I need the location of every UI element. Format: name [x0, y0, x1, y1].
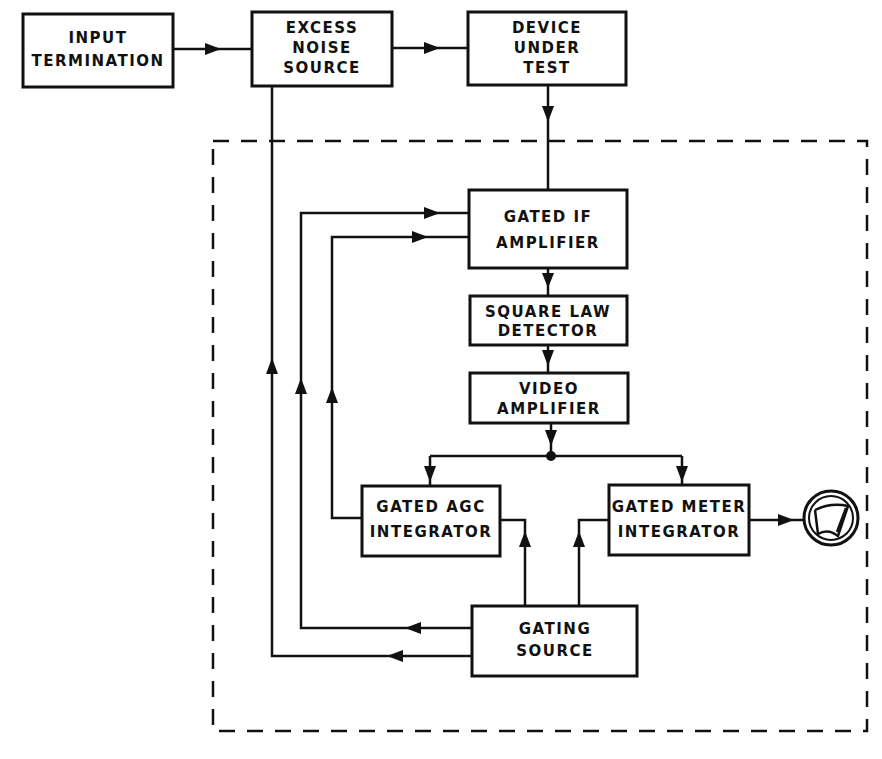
- block-label: INTEGRATOR: [370, 523, 492, 541]
- block-diagram: INPUT TERMINATION EXCESS NOISE SOURCE DE…: [0, 0, 882, 759]
- block-label: EXCESS: [286, 19, 358, 37]
- block-label: TEST: [523, 59, 571, 77]
- block-label: SOURCE: [516, 642, 594, 660]
- block-label: GATED AGC: [376, 498, 485, 516]
- block-label: INTEGRATOR: [618, 523, 740, 541]
- block-device-under-test: DEVICE UNDER TEST: [468, 12, 626, 85]
- block-gating-source: GATING SOURCE: [472, 606, 637, 676]
- block-gated-meter-integrator: GATED METER INTEGRATOR: [609, 485, 749, 555]
- block-label: GATING: [519, 620, 591, 638]
- block-label: DEVICE: [512, 19, 582, 37]
- block-label: SQUARE LAW: [485, 303, 611, 321]
- block-label: NOISE: [292, 39, 351, 57]
- block-label: INPUT: [68, 29, 127, 47]
- block-label: SOURCE: [283, 59, 361, 77]
- block-label: TERMINATION: [31, 52, 164, 70]
- block-label: VIDEO: [519, 380, 579, 398]
- block-video-amplifier: VIDEO AMPLIFIER: [470, 373, 628, 423]
- block-label: DETECTOR: [498, 322, 599, 340]
- block-gated-agc-integrator: GATED AGC INTEGRATOR: [362, 486, 500, 556]
- analog-meter-icon: [804, 491, 858, 545]
- block-label: AMPLIFIER: [496, 234, 600, 252]
- block-input-termination: INPUT TERMINATION: [23, 14, 173, 87]
- block-label: GATED IF: [504, 208, 593, 226]
- block-gated-if-amplifier: GATED IF AMPLIFIER: [469, 190, 627, 268]
- block-label: AMPLIFIER: [497, 400, 601, 418]
- block-label: UNDER: [514, 39, 580, 57]
- block-square-law-detector: SQUARE LAW DETECTOR: [470, 296, 627, 345]
- block-label: GATED METER: [612, 498, 747, 516]
- block-excess-noise-source: EXCESS NOISE SOURCE: [252, 12, 392, 86]
